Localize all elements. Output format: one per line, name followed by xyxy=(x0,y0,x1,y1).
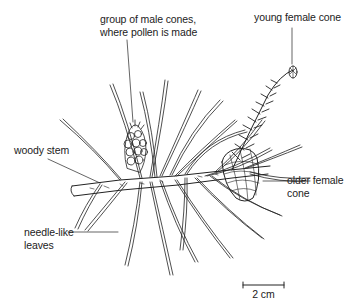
needles-drawing xyxy=(60,80,310,275)
label-male-cones: group of male cones, where pollen is mad… xyxy=(100,13,192,38)
label-older-female-cone-line1: older female xyxy=(287,174,344,187)
label-male-cones-line1: group of male cones, xyxy=(100,13,192,26)
label-older-female-cone-line2: cone xyxy=(287,187,344,200)
label-woody-stem: woody stem xyxy=(14,144,69,157)
label-male-cones-line2: where pollen is made xyxy=(100,26,192,39)
label-needle-leaves-line2: leaves xyxy=(24,239,74,252)
label-older-female-cone: older female cone xyxy=(287,174,344,199)
male-cones-drawing xyxy=(124,120,148,172)
label-young-female-cone: young female cone xyxy=(254,11,341,24)
leader-lines xyxy=(48,28,305,232)
scale-bar-label: 2 cm xyxy=(243,288,284,298)
young-female-cone-drawing xyxy=(289,66,297,78)
woody-stem-drawing xyxy=(71,166,270,196)
pine-branch-diagram: group of male cones, where pollen is mad… xyxy=(0,0,348,298)
label-needle-leaves: needle-like leaves xyxy=(24,226,74,251)
label-needle-leaves-line1: needle-like xyxy=(24,226,74,239)
